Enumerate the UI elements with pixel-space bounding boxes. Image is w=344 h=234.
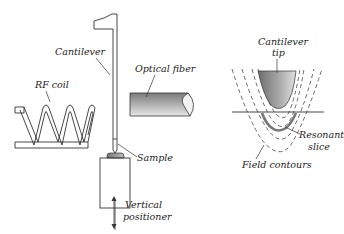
resonant-slice-leader [285,127,300,134]
field-contours-label: Field contours [241,159,312,170]
resonant-slice [262,113,296,131]
cantilever-leader [96,58,110,75]
rf-coil-leader [46,91,50,102]
resonant-slice-label-line2: slice [308,141,330,152]
optical-fiber [130,93,194,116]
vertical-positioner-label-line1: Vertical [125,199,162,210]
cantilever-label: Cantilever [55,46,107,57]
sample-label: Sample [137,152,173,163]
resonant-slice-label-line1: Resonant [298,129,344,140]
sample [107,153,124,158]
cantilever-tip-label-line2: tip [272,47,285,58]
mrfm-diagram: Cantilever Optical fiber RF coil Sample [0,0,344,234]
field-contours-leader [256,145,264,159]
vertical-positioner-label-line2: positioner [123,211,173,222]
cantilever [94,14,117,153]
positioner-double-arrow [112,196,117,229]
rf-coil [15,105,95,148]
optical-fiber-label: Optical fiber [135,63,197,74]
rf-coil-label: RF coil [34,79,69,90]
cantilever-tip-label-line1: Cantilever [258,36,310,47]
